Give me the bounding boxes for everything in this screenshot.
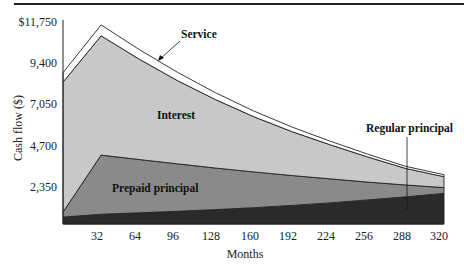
- x-tick-192: 192: [279, 229, 297, 243]
- x-tick-32: 32: [91, 229, 103, 243]
- x-tick-160: 160: [241, 229, 259, 243]
- service-label: Service: [181, 28, 217, 40]
- x-tick-288: 288: [393, 229, 411, 243]
- x-axis-title: Months: [227, 247, 264, 261]
- y-tick-2350: 2,350: [30, 180, 57, 194]
- x-tick-64: 64: [129, 229, 141, 243]
- x-tick-128: 128: [202, 229, 220, 243]
- y-tick-9400: 9,400: [30, 56, 57, 70]
- y-tick-7050: 7,050: [30, 97, 57, 111]
- service-pointer: [160, 41, 180, 59]
- y-tick-11750: $11,750: [18, 15, 57, 29]
- x-tick-320: 320: [430, 229, 448, 243]
- x-tick-224: 224: [317, 229, 335, 243]
- regular-principal-label: Regular principal: [366, 122, 453, 135]
- prepaid-principal-label: Prepaid principal: [112, 182, 198, 195]
- y-axis-title: Cash flow ($): [11, 95, 25, 161]
- x-tick-96: 96: [167, 229, 179, 243]
- cash-flow-chart: $11,750 9,400 7,050 4,700 2,350 32 64 96…: [0, 0, 464, 274]
- interest-label: Interest: [157, 109, 195, 121]
- x-tick-256: 256: [355, 229, 373, 243]
- y-tick-4700: 4,700: [30, 139, 57, 153]
